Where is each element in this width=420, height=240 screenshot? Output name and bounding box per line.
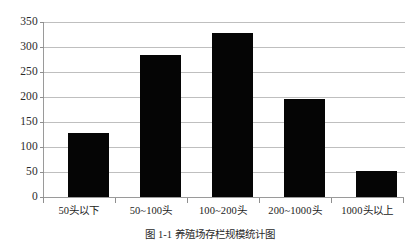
- x-axis-label-4: 1000头以上: [331, 204, 403, 217]
- y-axis-label-300: 300: [4, 41, 38, 53]
- y-axis-label-250: 250: [4, 66, 38, 78]
- figure-caption: 图 1-1 养殖场存栏规模统计图: [0, 228, 420, 240]
- y-axis-tick-350: [40, 22, 44, 23]
- x-axis-tick-5: [403, 198, 404, 203]
- bar-2: [140, 55, 181, 198]
- x-axis-label-3: 200~1000头: [259, 204, 331, 217]
- y-axis-tick-50: [40, 172, 44, 173]
- y-axis-tick-250: [40, 72, 44, 73]
- y-axis-label-350: 350: [4, 16, 38, 28]
- bar-5: [356, 171, 397, 197]
- gridline-350: [44, 22, 405, 23]
- y-axis-tick-100: [40, 147, 44, 148]
- plot-area: [43, 22, 404, 198]
- bar-chart-figure: 350 300 250 200 150 100 50 0 50头以下 50~10…: [0, 0, 420, 240]
- x-axis-label-1: 50~100头: [115, 204, 187, 217]
- bar-4: [284, 99, 325, 197]
- y-axis-tick-150: [40, 122, 44, 123]
- y-axis-label-150: 150: [4, 116, 38, 128]
- bar-3: [212, 33, 253, 197]
- y-axis-tick-300: [40, 47, 44, 48]
- bar-1: [68, 133, 109, 198]
- y-axis-label-0: 0: [4, 191, 38, 203]
- x-axis-tick-2: [187, 198, 188, 203]
- x-axis-label-2: 100~200头: [187, 204, 259, 217]
- y-axis-label-100: 100: [4, 141, 38, 153]
- y-axis-tick-200: [40, 97, 44, 98]
- x-axis-tick-4: [331, 198, 332, 203]
- y-axis-label-200: 200: [4, 91, 38, 103]
- x-axis-tick-3: [259, 198, 260, 203]
- x-axis-tick-1: [115, 198, 116, 203]
- x-axis-label-0: 50头以下: [43, 204, 115, 217]
- x-axis-tick-0: [43, 198, 44, 203]
- y-axis-label-50: 50: [4, 166, 38, 178]
